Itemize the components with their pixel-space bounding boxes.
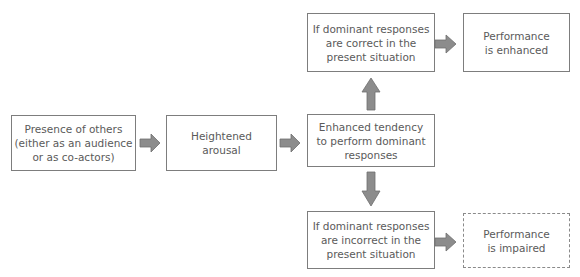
arrow-tendency-to-correct [362,78,380,110]
arrow-presence-to-arousal [140,134,160,152]
arrow-tendency-to-incorrect [362,172,380,206]
arrows-layer [0,0,580,277]
arrow-arousal-to-tendency [280,134,300,152]
arrow-correct-to-enhanced [435,35,456,53]
arrow-incorrect-to-impaired [435,233,456,251]
